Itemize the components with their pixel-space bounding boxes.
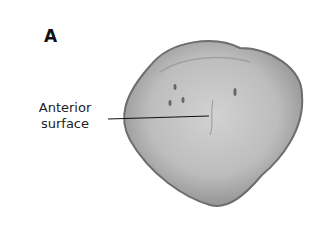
patella-shape — [124, 41, 302, 206]
callout-line-1: Anterior — [29, 100, 101, 116]
panel-label: A — [44, 26, 57, 46]
anterior-surface-label: Anterior surface — [29, 100, 101, 132]
callout-line-2: surface — [29, 116, 101, 132]
